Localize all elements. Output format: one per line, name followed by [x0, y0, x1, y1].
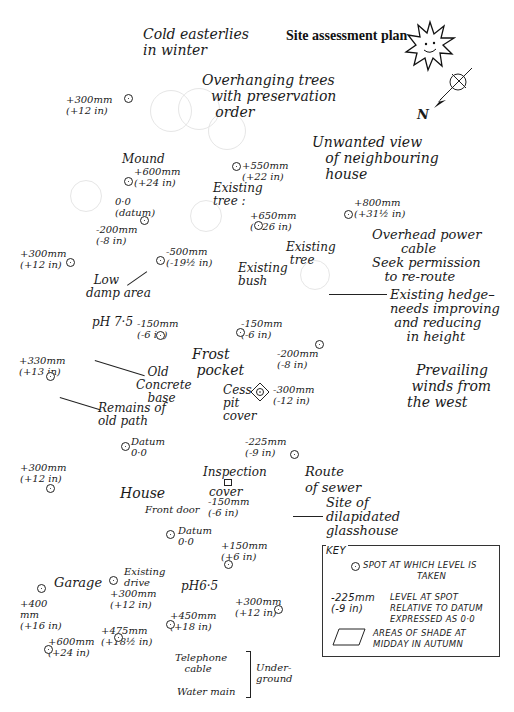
- label-existing-tree-2: Existing tree: [286, 241, 336, 267]
- level-label: -150mm (-6 in): [241, 318, 282, 340]
- note-unwanted-view: Unwanted view of neighbouring house: [312, 134, 439, 182]
- glasshouse-pointer-line: [293, 516, 323, 517]
- faint-tree-shape: [70, 180, 102, 212]
- level-label: +475mm (+18½ in): [101, 625, 152, 647]
- level-label: +330mm (+13 in): [19, 355, 65, 377]
- label-glasshouse: Site of dilapidated glasshouse: [326, 496, 400, 538]
- level-label: -300mm (-12 in): [273, 384, 314, 406]
- level-spot-icon: [44, 645, 53, 654]
- level-spot-icon: [121, 442, 130, 451]
- label-front-door: Front door: [145, 504, 200, 515]
- label-inspection: Inspection: [203, 466, 267, 479]
- note-power-cable: Overhead power cable Seek permission to …: [372, 228, 481, 284]
- page-title: Site assessment plan: [286, 28, 407, 44]
- level-label: -200mm (-8 in): [277, 348, 318, 370]
- underground-bracket: [246, 651, 251, 698]
- cesspit-cover-icon: [250, 382, 270, 402]
- key-legend: KEY SPOT AT WHICH LEVEL IS TAKEN -225mm …: [322, 545, 500, 657]
- label-water-main: Water main: [177, 686, 235, 697]
- compass-north-arrow-icon: [420, 62, 480, 122]
- level-label: -225mm (-9 in): [245, 436, 286, 458]
- label-existing-drive: Existing drive: [124, 566, 165, 588]
- label-mound: Mound: [122, 153, 165, 166]
- level-spot-icon: [254, 221, 263, 230]
- label-frost-pocket: Frost pocket: [192, 346, 244, 378]
- label-ph-6-5: pH6·5: [181, 580, 218, 593]
- level-spot-icon: [166, 530, 175, 539]
- level-label: +300mm (+12 in): [20, 462, 66, 484]
- note-cold-easterlies: Cold easterlies in winter: [143, 26, 249, 58]
- label-garage: Garage: [54, 576, 102, 589]
- level-spot-icon: [166, 620, 175, 629]
- spot-icon: [351, 562, 360, 571]
- site-plan: Site assessment plan N Cold easterlies i…: [0, 0, 514, 712]
- label-old-concrete-base: Old Concrete base: [136, 366, 192, 405]
- level-label: +300mm (+12 in): [66, 94, 112, 116]
- level-spot-icon: [46, 372, 55, 381]
- level-label: Datum 0·0: [178, 525, 212, 547]
- key-item-2-sample: -225mm (-9 in): [331, 592, 375, 614]
- level-label: +300mm (+12 in): [110, 588, 156, 610]
- level-spot-icon: [37, 584, 46, 593]
- level-spot-icon: [236, 328, 245, 337]
- level-label: Datum 0·0: [131, 436, 165, 458]
- north-label: N: [417, 108, 429, 121]
- label-ph-7-5: pH 7·5: [92, 316, 133, 329]
- key-item-1-text: SPOT AT WHICH LEVEL IS TAKEN: [363, 560, 477, 582]
- level-label: 0·0 (datum): [115, 196, 155, 218]
- level-spot-icon: [156, 331, 165, 340]
- note-prevailing-winds: Prevailing winds from the west: [407, 362, 491, 410]
- label-existing-bush: Existing bush: [238, 262, 288, 288]
- level-spot-icon: [290, 450, 299, 459]
- key-title: KEY: [326, 545, 348, 556]
- level-spot-icon: [46, 484, 55, 493]
- level-spot-icon: [109, 576, 118, 585]
- level-label: -150mm (-6 in): [208, 496, 249, 518]
- note-overhanging-trees: Overhanging trees with preservation orde…: [202, 72, 336, 120]
- level-spot-icon: [114, 633, 123, 642]
- shade-parallelogram-icon: [331, 628, 367, 646]
- label-telephone-cable: Telephone cable: [175, 652, 227, 674]
- level-label: +150mm (+6 in): [221, 540, 267, 562]
- level-spot-icon: [66, 258, 75, 267]
- label-route-of-sewer: Route of sewer: [305, 464, 361, 496]
- level-label: +300mm (+12 in): [20, 248, 66, 270]
- level-spot-icon: [140, 216, 149, 225]
- label-low-damp-area: Low damp area: [86, 274, 151, 300]
- level-label: +450mm (+18 in): [170, 610, 216, 632]
- level-label: +600mm (+24 in): [134, 166, 180, 188]
- label-house: House: [120, 485, 165, 501]
- level-spot-icon: [344, 210, 353, 219]
- note-existing-hedge: Existing hedge– needs improving and redu…: [390, 288, 500, 344]
- level-label: -500mm (-19½ in): [166, 246, 212, 268]
- level-label: +600mm (+24 in): [48, 636, 94, 658]
- label-existing-tree-1: Existing tree :: [213, 182, 263, 208]
- key-item-2-text: LEVEL AT SPOT RELATIVE TO DATUM EXPRESSE…: [390, 592, 483, 625]
- key-item-3-text: AREAS OF SHADE AT MIDDAY IN AUTUMN: [373, 628, 466, 650]
- label-underground: Under- ground: [256, 662, 292, 684]
- label-old-path: Remains of old path: [98, 402, 166, 428]
- level-label: +400 mm (+16 in): [20, 598, 62, 631]
- level-label: +800mm (+31½ in): [354, 197, 405, 219]
- level-spot-icon: [224, 560, 233, 569]
- path-pointer-line: [60, 397, 100, 410]
- level-spot-icon: [124, 177, 133, 186]
- level-label: +550mm (+22 in): [242, 160, 288, 182]
- level-spot-icon: [232, 162, 241, 171]
- level-spot-icon: [124, 94, 133, 103]
- level-spot-icon: [156, 256, 165, 265]
- hedge-pointer-line: [329, 294, 387, 295]
- level-label: -200mm (-8 in): [96, 224, 137, 246]
- level-spot-icon: [274, 605, 283, 614]
